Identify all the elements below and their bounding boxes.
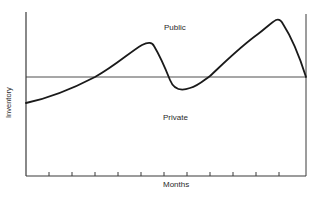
inventory-curve (26, 20, 306, 103)
public-region-label: Public (164, 23, 186, 32)
y-axis-label: Inventory (4, 87, 13, 118)
private-region-label: Private (163, 113, 188, 122)
x-axis-label: Months (163, 180, 189, 189)
inventory-chart: Public Private Months Inventory (0, 0, 318, 198)
